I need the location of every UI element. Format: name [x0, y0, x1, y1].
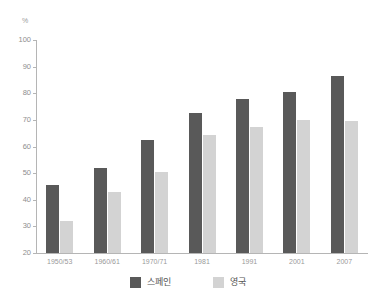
y-tick-label: 50 — [23, 169, 31, 177]
x-tick-label: 1991 — [242, 257, 258, 266]
bar-uk[interactable] — [345, 121, 358, 253]
bar-spain[interactable] — [236, 99, 249, 253]
y-axis-unit-label: % — [22, 17, 28, 25]
bar-group — [331, 40, 358, 253]
bar-uk[interactable] — [250, 127, 263, 253]
bar-group — [236, 40, 263, 253]
bar-group — [46, 40, 73, 253]
y-axis-line — [36, 40, 37, 253]
y-tick-mark — [33, 147, 36, 148]
x-tick-label: 2007 — [336, 257, 352, 266]
x-tick-label: 2001 — [289, 257, 305, 266]
y-tick-label: 90 — [23, 63, 31, 71]
legend-item[interactable]: 영국 — [213, 277, 246, 288]
legend-swatch-icon — [213, 277, 224, 288]
y-tick-label: 40 — [23, 196, 31, 204]
chart-title — [0, 0, 376, 2]
bar-spain[interactable] — [141, 140, 154, 253]
y-tick-mark — [33, 93, 36, 94]
bar-group — [283, 40, 310, 253]
bar-group — [94, 40, 121, 253]
bar-spain[interactable] — [331, 76, 344, 253]
y-tick-mark — [33, 173, 36, 174]
y-tick-label: 70 — [23, 116, 31, 124]
y-tick-mark — [33, 40, 36, 41]
bar-uk[interactable] — [108, 192, 121, 253]
bar-spain[interactable] — [46, 185, 59, 253]
bar-spain[interactable] — [283, 92, 296, 253]
y-tick-mark — [33, 253, 36, 254]
x-tick-label: 1970/71 — [142, 257, 167, 266]
legend-label: 스페인 — [147, 277, 171, 288]
y-tick-mark — [33, 226, 36, 227]
x-axis-line — [36, 253, 368, 254]
legend-item[interactable]: 스페인 — [130, 277, 171, 288]
y-tick-label: 100 — [18, 36, 31, 44]
bar-uk[interactable] — [297, 120, 310, 253]
x-tick-label: 1950/53 — [47, 257, 72, 266]
y-tick-mark — [33, 200, 36, 201]
legend-label: 영국 — [230, 277, 246, 288]
x-tick-label: 1981 — [194, 257, 210, 266]
bar-group — [141, 40, 168, 253]
x-tick-label: 1960/61 — [94, 257, 119, 266]
y-tick-mark — [33, 120, 36, 121]
bar-uk[interactable] — [155, 172, 168, 253]
bar-uk[interactable] — [203, 135, 216, 253]
bar-spain[interactable] — [94, 168, 107, 253]
plot-area: 2030405060708090100 1950/531960/611970/7… — [36, 40, 368, 253]
chart-legend: 스페인영국 — [0, 277, 376, 288]
y-tick-mark — [33, 67, 36, 68]
bar-chart-figure: % 2030405060708090100 1950/531960/611970… — [0, 0, 376, 300]
y-tick-label: 30 — [23, 222, 31, 230]
y-tick-label: 60 — [23, 143, 31, 151]
y-tick-label: 20 — [23, 249, 31, 257]
bar-group — [189, 40, 216, 253]
y-tick-label: 80 — [23, 89, 31, 97]
bar-spain[interactable] — [189, 113, 202, 253]
legend-swatch-icon — [130, 277, 141, 288]
bar-uk[interactable] — [60, 221, 73, 253]
